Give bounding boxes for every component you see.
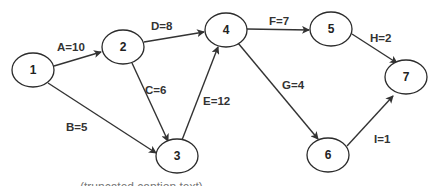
edge-f [247,29,309,30]
network-diagram: A=10 B=5 C=6 D=8 E=12 F=7 G=4 H=2 I=1 1 … [0,0,438,186]
edge-label-b: B=5 [66,121,88,133]
figure-caption-truncated: (truncated caption text) [80,180,203,186]
node-label-6: 6 [325,148,332,162]
edge-label-g: G=4 [282,79,305,91]
node-label-3: 3 [174,149,181,163]
node-2: 2 [102,30,144,64]
edge-a [54,52,101,66]
edge-label-e: E=12 [203,95,230,107]
edge-label-d: D=8 [151,20,173,32]
edge-label-f: F=7 [269,15,289,27]
node-3: 3 [156,139,198,173]
edge-g [238,43,318,139]
edge-label-h: H=2 [370,32,391,44]
node-label-2: 2 [120,40,127,54]
edge-d [144,32,204,42]
node-1: 1 [12,53,54,87]
node-5: 5 [310,12,352,46]
edge-b [48,83,156,153]
edge-label-c: C=6 [145,84,166,96]
node-label-7: 7 [403,70,410,84]
node-4: 4 [205,13,247,47]
edge-label-i: I=1 [374,133,391,145]
edge-c [132,63,168,141]
node-label-5: 5 [328,22,335,36]
node-label-4: 4 [223,23,230,37]
node-6: 6 [307,138,349,172]
edge-label-a: A=10 [57,41,85,53]
node-label-1: 1 [30,63,37,77]
node-7: 7 [385,60,427,94]
edge-e [182,47,218,140]
diagram-svg: A=10 B=5 C=6 D=8 E=12 F=7 G=4 H=2 I=1 1 … [0,0,438,186]
